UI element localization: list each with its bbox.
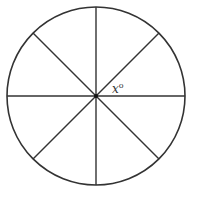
center-point [94, 94, 98, 98]
circle-sector-diagram: xo [0, 0, 200, 203]
angle-label: xo [112, 81, 124, 96]
